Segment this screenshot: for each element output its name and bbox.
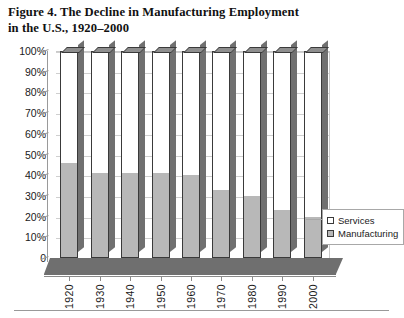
x-axis-tick-label-1960: 1960: [185, 284, 197, 309]
bar-segment-manufacturing[interactable]: [91, 173, 109, 258]
legend-leader-line: [306, 219, 322, 220]
bar-group-1970[interactable]: [212, 51, 230, 258]
bar-group-1980[interactable]: [243, 51, 261, 258]
x-axis-tick-label-1990: 1990: [276, 284, 288, 309]
x-axis-tick-label-1970: 1970: [215, 284, 227, 309]
x-axis-tick: [221, 276, 222, 281]
stacked-bar[interactable]: [182, 51, 200, 258]
bar-group-1940[interactable]: [121, 51, 139, 258]
x-axis-tick: [191, 276, 192, 281]
x-axis-tick: [252, 276, 253, 281]
bar-segment-services[interactable]: [243, 51, 261, 196]
stacked-bar[interactable]: [273, 51, 291, 258]
bar-side-face: [291, 40, 297, 252]
gray-square-swatch: [327, 230, 334, 237]
legend-item-label: Manufacturing: [338, 227, 398, 240]
bar-group-1990[interactable]: [273, 51, 291, 258]
y-axis-line: [47, 51, 48, 262]
bar-side-face: [200, 40, 206, 252]
bar-segment-manufacturing[interactable]: [60, 163, 78, 258]
bar-side-face: [78, 40, 84, 252]
bar-segment-services[interactable]: [121, 51, 139, 173]
x-axis-tick: [161, 276, 162, 281]
bar-side-face: [109, 40, 115, 252]
x-axis-line: [44, 276, 336, 277]
figure-caption-line-1: Figure 4. The Decline in Manufacturing E…: [8, 4, 378, 20]
bar-segment-manufacturing[interactable]: [273, 210, 291, 258]
x-axis-tick-label-1920: 1920: [63, 284, 75, 309]
bar-series-container: [56, 51, 330, 258]
bar-side-face: [170, 40, 176, 252]
stacked-bar[interactable]: [121, 51, 139, 258]
stacked-bar[interactable]: [152, 51, 170, 258]
bar-segment-services[interactable]: [304, 51, 322, 217]
stacked-bar[interactable]: [304, 51, 322, 258]
x-axis-tick: [100, 276, 101, 281]
stacked-bar[interactable]: [60, 51, 78, 258]
x-axis-tick: [313, 276, 314, 281]
plot-floor-front-edge: [44, 274, 336, 275]
stacked-bar[interactable]: [91, 51, 109, 258]
bar-segment-manufacturing[interactable]: [243, 196, 261, 258]
bar-group-1920[interactable]: [60, 51, 78, 258]
x-axis: 192019301940195019601970198019902000: [0, 276, 403, 318]
figure-caption-line-2: in the U.S., 1920–2000: [8, 20, 378, 36]
x-axis-tick: [130, 276, 131, 281]
bar-segment-services[interactable]: [152, 51, 170, 173]
stacked-bar[interactable]: [212, 51, 230, 258]
bar-side-face: [139, 40, 145, 252]
page-bottom-rule: [14, 310, 389, 311]
chart-legend: ServicesManufacturing: [322, 209, 404, 245]
legend-item-services[interactable]: Services: [327, 214, 398, 227]
bar-segment-services[interactable]: [273, 51, 291, 210]
legend-item-manufacturing[interactable]: Manufacturing: [327, 227, 398, 240]
bar-group-2000[interactable]: [304, 51, 322, 258]
x-axis-tick: [69, 276, 70, 281]
chart-plot-area: 100%90%80%70%60%50%40%30%20%10%0 1920193…: [0, 46, 403, 298]
bar-group-1930[interactable]: [91, 51, 109, 258]
x-axis-tick-label-1930: 1930: [94, 284, 106, 309]
legend-item-label: Services: [338, 214, 374, 227]
bar-segment-manufacturing[interactable]: [304, 217, 322, 258]
bar-group-1950[interactable]: [152, 51, 170, 258]
bar-side-face: [261, 40, 267, 252]
x-axis-tick-label-1980: 1980: [246, 284, 258, 309]
bar-segment-services[interactable]: [60, 51, 78, 163]
bar-segment-manufacturing[interactable]: [182, 175, 200, 258]
white-square-swatch: [327, 217, 334, 224]
bar-segment-services[interactable]: [91, 51, 109, 173]
bar-group-1960[interactable]: [182, 51, 200, 258]
x-axis-tick-label-2000: 2000: [307, 284, 319, 309]
bar-segment-services[interactable]: [212, 51, 230, 190]
bar-side-face: [230, 40, 236, 252]
bar-segment-manufacturing[interactable]: [152, 173, 170, 258]
x-axis-tick: [282, 276, 283, 281]
figure-caption: Figure 4. The Decline in Manufacturing E…: [8, 4, 378, 36]
stacked-bar[interactable]: [243, 51, 261, 258]
x-axis-tick-label-1940: 1940: [124, 284, 136, 309]
plot-floor-3d: [50, 258, 336, 274]
y-axis-labels: 100%90%80%70%60%50%40%30%20%10%0: [0, 46, 46, 261]
bar-segment-manufacturing[interactable]: [121, 173, 139, 258]
x-axis-tick-label-1950: 1950: [155, 284, 167, 309]
bar-segment-manufacturing[interactable]: [212, 190, 230, 258]
bar-segment-services[interactable]: [182, 51, 200, 175]
